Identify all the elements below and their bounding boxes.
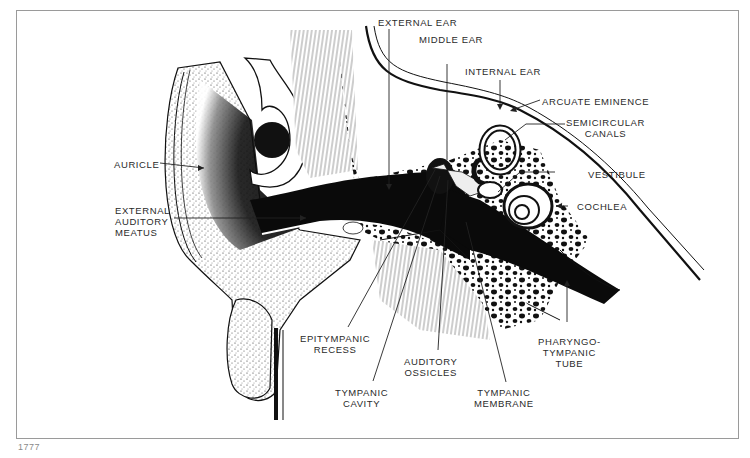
label-tympanic-membrane: TYMPANIC MEMBRANE [474, 387, 534, 409]
label-tympanic-cavity: TYMPANIC CAVITY [335, 387, 388, 409]
label-epitympanic-recess: EPITYMPANIC RECESS [300, 333, 370, 355]
label-line: TYMPANIC [335, 387, 388, 398]
label-auditory-ossicles: AUDITORY OSSICLES [404, 356, 458, 378]
cochlea-shape [504, 184, 552, 228]
label-cochlea: COCHLEA [577, 201, 627, 212]
label-vestibule: VESTIBULE [588, 169, 646, 180]
label-line: PHARYNGO- [538, 336, 601, 347]
label-external-auditory-meatus: EXTERNAL AUDITORY MEATUS [115, 205, 170, 238]
label-line: CANALS [566, 128, 645, 139]
figure-number: 1777 [18, 442, 40, 452]
label-line: CAVITY [335, 398, 388, 409]
label-line: OSSICLES [404, 367, 458, 378]
label-line: MEATUS [115, 227, 170, 238]
label-line: RECESS [300, 344, 370, 355]
label-line: MEMBRANE [474, 398, 534, 409]
label-line: TYMPANIC [474, 387, 534, 398]
label-line: TUBE [538, 358, 601, 369]
label-line: EPITYMPANIC [300, 333, 370, 344]
label-semicircular-canals: SEMICIRCULAR CANALS [566, 117, 645, 139]
label-line: SEMICIRCULAR [566, 117, 645, 128]
label-external-ear: EXTERNAL EAR [378, 17, 457, 28]
label-auricle: AURICLE [114, 159, 159, 170]
label-line: TYMPANIC [538, 347, 601, 358]
label-line: EXTERNAL [115, 205, 170, 216]
vestibule-shape [478, 182, 502, 198]
label-line: AUDITORY [115, 216, 170, 227]
label-pharyngotympanic-tube: PHARYNGO- TYMPANIC TUBE [538, 336, 601, 369]
label-internal-ear: INTERNAL EAR [465, 66, 541, 77]
label-middle-ear: MIDDLE EAR [419, 34, 483, 45]
label-arcuate-eminence: ARCUATE EMINENCE [542, 96, 649, 107]
label-line: AUDITORY [404, 356, 458, 367]
